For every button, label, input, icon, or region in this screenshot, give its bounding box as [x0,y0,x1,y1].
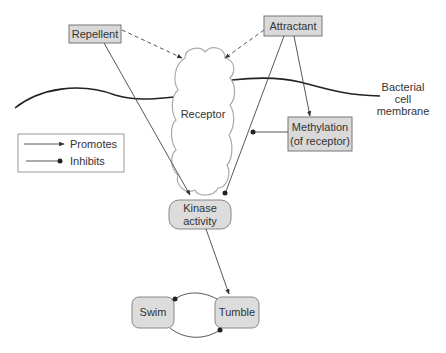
methylation-label-line2: (of receptor) [290,135,350,147]
chemotaxis-diagram: Receptor Repellent Attractant Methylatio… [0,0,446,353]
tumble-label: Tumble [219,306,255,318]
receptor-cloud [172,48,235,195]
methylation-label-line1: Methylation [292,121,348,133]
inhibit-dot [173,297,178,302]
repellent-binds-receptor-edge [122,30,182,58]
legend-promotes-label: Promotes [70,138,118,150]
swim-label: Swim [140,306,167,318]
legend-inhibits-label: Inhibits [70,155,105,167]
legend: Promotes Inhibits [18,134,124,172]
methylation-node: Methylation (of receptor) [288,117,352,151]
membrane-label: Bacterial cell membrane [377,81,430,117]
kinase-promotes-tumble-edge [206,229,229,294]
attractant-promotes-methylation-edge [294,36,310,116]
swim-node: Swim [132,297,174,328]
repellent-node: Repellent [69,25,121,43]
attractant-label: Attractant [269,20,316,32]
inhibits-dot-icon [58,159,63,164]
attractant-binds-receptor-edge [225,30,264,58]
tumble-node: Tumble [215,297,259,328]
membrane-label-line2: cell [395,93,412,105]
inhibit-dot [251,130,256,135]
tumble-inhibits-swim-edge [175,293,217,299]
membrane-label-line1: Bacterial [382,81,425,93]
inhibit-dot [223,191,228,196]
kinase-activity-node: Kinase activity [169,200,231,229]
attractant-node: Attractant [264,16,322,36]
receptor-label: Receptor [181,108,226,120]
kinase-label-line1: Kinase [183,202,217,214]
swim-inhibits-tumble-edge [170,328,220,337]
membrane-label-line3: membrane [377,105,430,117]
inhibit-dot [218,328,223,333]
kinase-label-line2: activity [183,215,217,227]
repellent-label: Repellent [72,28,118,40]
